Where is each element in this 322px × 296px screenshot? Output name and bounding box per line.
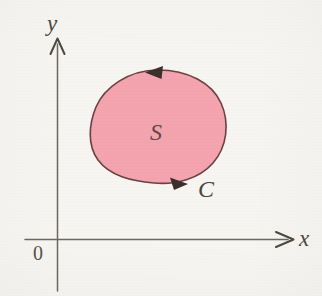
figure-canvas: y x 0 S C — [0, 0, 322, 296]
curve-label-c: C — [198, 177, 214, 201]
region-label-s: S — [150, 120, 162, 144]
diagram-svg — [0, 0, 322, 296]
x-axis — [25, 232, 294, 247]
origin-label: 0 — [33, 243, 43, 263]
y-axis-label: y — [47, 12, 57, 35]
y-axis — [51, 39, 65, 292]
x-axis-label: x — [299, 227, 309, 250]
